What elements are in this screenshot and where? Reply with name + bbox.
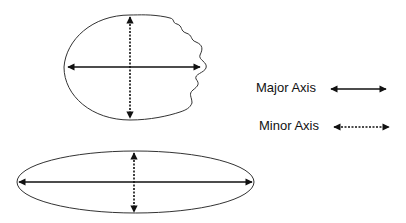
elongated-ellipse (17, 151, 254, 213)
irregular-oval (64, 15, 206, 120)
diagram-canvas (0, 0, 406, 223)
legend-minor-axis-label: Minor Axis (259, 118, 319, 133)
legend-major-axis-label: Major Axis (256, 80, 316, 95)
